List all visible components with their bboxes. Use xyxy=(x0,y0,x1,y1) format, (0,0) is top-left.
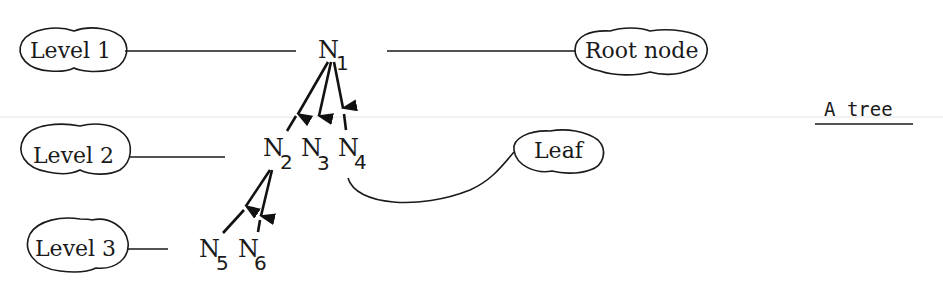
edge-n1-n2 xyxy=(298,62,328,114)
level-3-bubble: Level 3 xyxy=(28,218,129,272)
root-node-bubble: Root node xyxy=(575,28,707,75)
node-n6: N 6 xyxy=(238,235,267,275)
level-1-label: Level 1 xyxy=(30,38,111,63)
node-n2-subscript: 2 xyxy=(280,150,293,174)
edge-n2-n5-tail xyxy=(223,210,244,233)
node-n4: N 4 xyxy=(338,134,367,174)
edge-n2-n6-tail xyxy=(258,220,260,232)
leaf-connector-curve xyxy=(348,152,514,203)
node-n4-subscript: 4 xyxy=(354,150,367,174)
edge-n1-n4-tail xyxy=(344,114,346,130)
node-n3-subscript: 3 xyxy=(317,151,330,175)
node-n5: N 5 xyxy=(199,235,229,275)
leaf-label: Leaf xyxy=(534,138,585,163)
node-n2: N 2 xyxy=(263,134,293,174)
node-n3: N 3 xyxy=(301,134,330,175)
edges-level-1-to-2 xyxy=(287,62,346,131)
edges-level-2-to-3 xyxy=(223,170,272,233)
edge-n1-n2-tail xyxy=(287,116,296,131)
caption: A tree xyxy=(815,98,913,124)
node-n1-subscript: 1 xyxy=(336,51,349,75)
level-1-bubble: Level 1 xyxy=(20,28,127,71)
leaf-bubble: Leaf xyxy=(514,130,604,173)
level-2-bubble: Level 2 xyxy=(21,124,130,174)
tree-diagram: Level 1 N 1 Root node Level 2 N 2 N 3 N … xyxy=(0,0,943,290)
level-2-label: Level 2 xyxy=(33,143,114,168)
edge-n1-n3 xyxy=(319,62,331,116)
root-node-label: Root node xyxy=(585,38,698,63)
node-n6-subscript: 6 xyxy=(254,251,267,275)
caption-text: A tree xyxy=(824,98,893,120)
node-n5-subscript: 5 xyxy=(216,251,229,275)
level-3-label: Level 3 xyxy=(35,236,116,261)
